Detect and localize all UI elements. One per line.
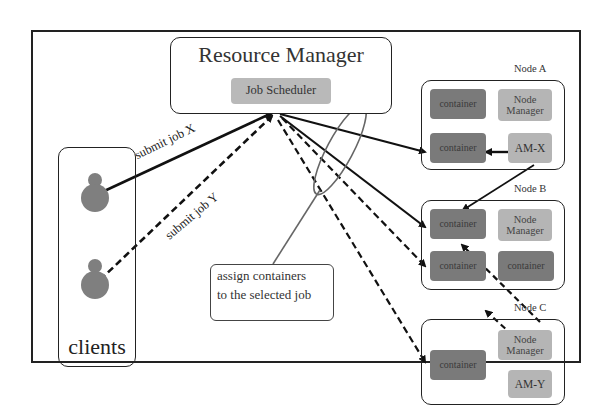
- node-b-container-1: container: [430, 209, 486, 239]
- node-a-container-2: container: [430, 133, 486, 163]
- resource-manager-box: Resource Manager Job Scheduler: [170, 37, 392, 114]
- node-a-node-manager: Node Manager: [498, 89, 552, 121]
- node-c: container Node Manager AM-Y: [421, 319, 565, 405]
- node-b-node-manager: Node Manager: [498, 209, 552, 241]
- node-a-am-x: AM-X: [508, 133, 552, 163]
- node-a: container Node Manager container AM-X: [421, 80, 565, 170]
- node-a-label: Node A: [514, 63, 546, 74]
- node-c-container: container: [430, 350, 486, 380]
- node-a-container-1: container: [430, 89, 486, 119]
- callout-line-1: assign containers: [217, 267, 327, 286]
- node-b: container Node Manager container contain…: [421, 200, 565, 290]
- node-b-label: Node B: [514, 183, 546, 194]
- selection-ellipse: [305, 100, 375, 201]
- node-c-node-manager: Node Manager: [498, 330, 552, 360]
- assign-containers-callout: assign containers to the selected job: [210, 264, 334, 321]
- node-c-label: Node C: [514, 302, 546, 313]
- job-scheduler: Job Scheduler: [231, 78, 331, 104]
- clients-box: clients: [58, 147, 136, 367]
- node-b-container-3: container: [498, 251, 554, 281]
- node-c-am-y: AM-Y: [508, 370, 552, 398]
- node-b-container-2: container: [430, 251, 486, 281]
- callout-line-2: to the selected job: [217, 286, 327, 305]
- resource-manager-title: Resource Manager: [171, 42, 391, 68]
- clients-label: clients: [59, 334, 135, 360]
- callout-leader: [273, 190, 320, 264]
